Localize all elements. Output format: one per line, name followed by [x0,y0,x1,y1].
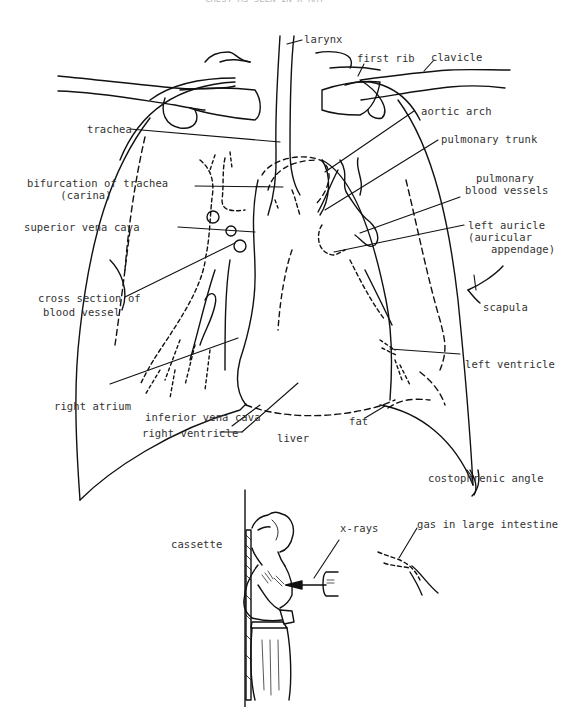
label-right-ventricle: right ventricle [142,427,238,439]
heart-silhouette [238,160,395,416]
label-left-ventricle: left ventricle [465,358,555,370]
left-hilar-vessels [318,158,410,385]
label-pulmonary-vessels-line1: pulmonary [465,172,545,184]
xray-tube [286,540,339,596]
label-cassette: cassette [171,538,222,550]
label-first-rib: first rib [357,52,415,64]
label-superior-vena-cava: superior vena cava [24,221,140,233]
label-larynx: larynx [304,33,343,45]
label-bifurcation-of-trachea: bifurcation of trachea (carina) [27,177,145,201]
label-pulmonary-blood-vessels: pulmonary blood vessels [465,172,545,196]
trachea-column [268,36,300,215]
label-cross-section-line2: blood vessel [38,306,141,318]
label-inferior-vena-cava: inferior vena cava [145,411,261,423]
label-right-atrium: right atrium [54,400,131,412]
label-cross-section-line1: cross section of [38,292,141,304]
label-left-auricle: left auricle (auricular appendage) [468,219,555,255]
label-left-auricle-line3: appendage) [468,243,555,255]
label-trachea: trachea [87,123,132,135]
label-bifurcation-line1: bifurcation of trachea [27,177,145,189]
label-clavicle: clavicle [431,51,482,63]
clavicles [58,70,510,110]
label-pulmonary-vessels-line2: blood vessels [465,184,545,196]
label-costophrenic-angle: costophrenic angle [428,472,544,484]
label-left-auricle-line2: (auricular [468,231,555,243]
label-aortic-arch: aortic arch [421,105,492,117]
label-x-rays: x-rays [340,522,379,534]
label-liver: liver [277,432,309,444]
scapula-edge [468,266,503,303]
large-intestine-gas [378,528,438,595]
label-cross-section-of-blood-vessel: cross section of blood vessel [38,292,141,318]
chest-xray-diagram: CHEST AS SEEN IN X-RAY [0,0,564,707]
label-gas-in-large-intestine: gas in large intestine [417,518,558,530]
label-scapula: scapula [483,301,528,313]
patient-inset [244,490,294,707]
label-bifurcation-line2: (carina) [27,189,145,201]
left-upper-ribs [120,52,260,160]
label-pulmonary-trunk: pulmonary trunk [441,133,537,145]
label-fat: fat [349,415,368,427]
label-left-auricle-line1: left auricle [468,219,555,231]
